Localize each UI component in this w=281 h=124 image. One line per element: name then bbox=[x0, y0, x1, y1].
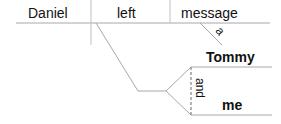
fork-upper bbox=[166, 67, 191, 91]
conjunction-word: and bbox=[193, 78, 207, 98]
indirect-object-diagonal bbox=[96, 23, 138, 91]
sentence-diagram: Daniel left message a Tommy me and bbox=[0, 0, 281, 124]
indirect-object-tommy: Tommy bbox=[206, 49, 255, 65]
fork-lower bbox=[166, 91, 191, 115]
article-word: a bbox=[213, 24, 228, 38]
direct-object-word: message bbox=[181, 5, 238, 21]
indirect-object-me: me bbox=[222, 97, 242, 113]
subject-word: Daniel bbox=[28, 5, 68, 21]
verb-word: left bbox=[117, 5, 136, 21]
